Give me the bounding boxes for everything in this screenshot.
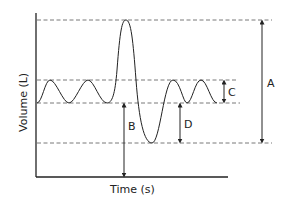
x-axis-label: Time (s) [109, 183, 155, 196]
label-B: B [128, 120, 136, 133]
spirogram-diagram: A B C D Time (s) Volume (L) [0, 0, 288, 202]
label-A: A [267, 77, 275, 90]
y-axis-label: Volume (L) [17, 73, 30, 132]
label-C: C [228, 86, 236, 99]
label-D: D [184, 118, 192, 131]
